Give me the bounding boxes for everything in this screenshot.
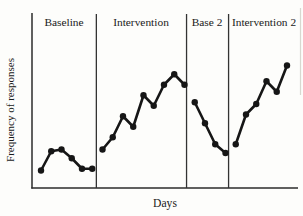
- chart-canvas: Baseline Intervention Base 2 Interventio…: [0, 0, 303, 216]
- data-point-intervention: [161, 82, 167, 88]
- data-point-baseline: [79, 166, 85, 172]
- phase-line-intervention-2: [236, 66, 287, 145]
- phase-dividers: [96, 14, 228, 188]
- data-point-base-2: [222, 150, 228, 156]
- data-point-intervention: [110, 134, 116, 140]
- data-point-intervention-2: [243, 111, 249, 117]
- data-point-baseline: [69, 155, 75, 161]
- phase-label-base-2: Base 2: [192, 16, 223, 28]
- data-point-intervention: [130, 124, 136, 130]
- data-point-intervention: [181, 82, 187, 88]
- data-point-baseline: [89, 166, 95, 172]
- data-point-intervention-2: [263, 78, 269, 84]
- data-point-intervention: [120, 113, 126, 119]
- data-point-base-2: [212, 141, 218, 147]
- phase-line-base-2: [195, 102, 226, 153]
- data-point-intervention-2: [284, 62, 290, 68]
- data-point-base-2: [202, 120, 208, 126]
- data-point-baseline: [48, 148, 54, 154]
- data-point-intervention: [140, 92, 146, 98]
- data-point-base-2: [192, 99, 198, 105]
- data-point-intervention: [151, 103, 157, 109]
- data-point-intervention: [171, 71, 177, 77]
- y-axis-title: Frequency of responses: [4, 58, 16, 162]
- data-point-baseline: [58, 146, 64, 152]
- x-axis-title: Days: [153, 197, 177, 210]
- phase-label-baseline: Baseline: [44, 16, 83, 28]
- data-point-intervention: [99, 146, 105, 152]
- data-point-intervention-2: [253, 101, 259, 107]
- data-point-intervention-2: [233, 141, 239, 147]
- data-point-baseline: [38, 167, 44, 173]
- phase-label-intervention-2: Intervention 2: [232, 16, 297, 28]
- phase-label-intervention: Intervention: [113, 16, 169, 28]
- data-point-intervention-2: [274, 89, 280, 95]
- abab-design-chart: Baseline Intervention Base 2 Interventio…: [0, 0, 303, 216]
- phase-labels: Baseline Intervention Base 2 Interventio…: [44, 16, 296, 28]
- data-series: [38, 62, 290, 173]
